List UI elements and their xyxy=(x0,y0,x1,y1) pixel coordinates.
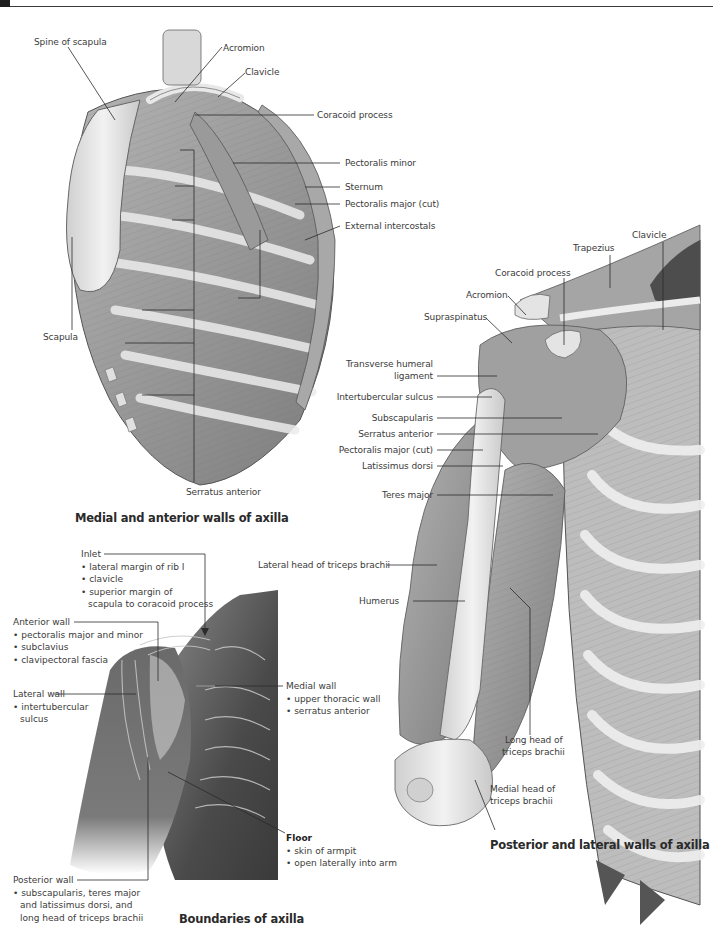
label-sternum: Sternum xyxy=(345,181,383,193)
label-latissimus-dorsi: Latissimus dorsi xyxy=(362,460,433,472)
posterior-wall-item: subscapularis, teres major xyxy=(13,887,143,900)
posterior-wall-item-continuation: and latissimus dorsi, and xyxy=(13,899,143,912)
label-pectoralis-major-cut-2: Pectoralis major (cut) xyxy=(339,444,433,456)
inlet-item: clavicle xyxy=(81,573,213,586)
label-supraspinatus: Supraspinatus xyxy=(424,311,487,323)
label-acromion: Acromion xyxy=(223,42,265,54)
medial-wall-item: serratus anterior xyxy=(286,705,381,718)
label-pectoralis-minor: Pectoralis minor xyxy=(345,157,416,169)
label-intertubercular-sulcus: Intertubercular sulcus xyxy=(337,391,433,403)
label-external-intercostals: External intercostals xyxy=(345,220,435,232)
block-posterior-wall: Posterior wall subscapularis, teres majo… xyxy=(13,874,143,924)
label-coracoid-process: Coracoid process xyxy=(317,109,393,121)
label-long-head-triceps-line2: triceps brachii xyxy=(502,746,565,758)
label-coracoid-process-2: Coracoid process xyxy=(495,267,571,279)
medial-wall-title: Medial wall xyxy=(286,680,381,693)
caption-posterior-lateral-walls: Posterior and lateral walls of axilla xyxy=(490,838,710,852)
label-subscapularis: Subscapularis xyxy=(372,412,433,424)
label-clavicle: Clavicle xyxy=(245,66,279,78)
lateral-wall-item-continuation: sulcus xyxy=(13,713,89,726)
block-floor: Floor skin of armpit open laterally into… xyxy=(286,832,397,870)
label-trapezius: Trapezius xyxy=(573,242,614,254)
label-serratus-anterior: Serratus anterior xyxy=(186,486,261,498)
inlet-item: superior margin of xyxy=(81,586,213,599)
medial-wall-item: upper thoracic wall xyxy=(286,693,381,706)
shoulder-arm-posterior-illustration xyxy=(395,225,700,925)
caption-medial-anterior-walls: Medial and anterior walls of axilla xyxy=(75,511,289,525)
block-lateral-wall: Lateral wall intertubercular sulcus xyxy=(13,688,89,726)
block-inlet: Inlet lateral margin of rib I clavicle s… xyxy=(81,548,213,611)
caption-boundaries-of-axilla: Boundaries of axilla xyxy=(179,912,304,926)
floor-item: skin of armpit xyxy=(286,845,397,858)
anterior-wall-item: pectoralis major and minor xyxy=(13,629,143,642)
label-teres-major: Teres major xyxy=(382,489,433,501)
inlet-item: lateral margin of rib I xyxy=(81,561,213,574)
floor-title: Floor xyxy=(286,832,397,845)
label-scapula: Scapula xyxy=(43,331,78,343)
posterior-wall-title: Posterior wall xyxy=(13,874,143,887)
floor-item: open laterally into arm xyxy=(286,857,397,870)
label-clavicle-2: Clavicle xyxy=(632,229,666,241)
label-transverse-humeral-ligament-line1: Transverse humeral xyxy=(346,358,433,370)
anterior-wall-title: Anterior wall xyxy=(13,616,143,629)
label-acromion-2: Acromion xyxy=(466,289,508,301)
lateral-wall-title: Lateral wall xyxy=(13,688,89,701)
block-medial-wall: Medial wall upper thoracic wall serratus… xyxy=(286,680,381,718)
inlet-title: Inlet xyxy=(81,548,213,561)
label-transverse-humeral-ligament-line2: ligament xyxy=(394,370,433,382)
label-humerus: Humerus xyxy=(359,595,399,607)
label-medial-head-triceps-line2: triceps brachii xyxy=(490,795,553,807)
anterior-wall-item: clavipectoral fascia xyxy=(13,654,143,667)
inlet-item-continuation: scapula to coracoid process xyxy=(81,598,213,611)
label-long-head-triceps-line1: Long head of xyxy=(505,734,562,746)
label-serratus-anterior-2: Serratus anterior xyxy=(358,428,433,440)
label-spine-of-scapula: Spine of scapula xyxy=(34,36,107,48)
anterior-wall-item: subclavius xyxy=(13,641,143,654)
label-medial-head-triceps-line1: Medial head of xyxy=(490,783,555,795)
lateral-wall-item: intertubercular xyxy=(13,701,89,714)
label-lateral-head-triceps: Lateral head of triceps brachii xyxy=(258,559,390,571)
label-pectoralis-major-cut: Pectoralis major (cut) xyxy=(345,198,439,210)
thorax-medial-anterior-illustration xyxy=(67,30,336,485)
block-anterior-wall: Anterior wall pectoralis major and minor… xyxy=(13,616,143,666)
posterior-wall-item-continuation: long head of triceps brachii xyxy=(13,912,143,925)
